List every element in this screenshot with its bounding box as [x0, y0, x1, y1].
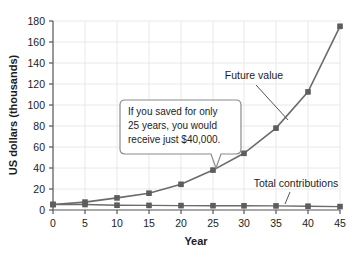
total-contributions-label: Total contributions — [254, 177, 339, 189]
callout-line-1: If you saved for only — [128, 106, 218, 117]
x-tick-40: 40 — [302, 217, 314, 229]
x-tick-10: 10 — [111, 217, 123, 229]
x-tick-5: 5 — [82, 217, 88, 229]
callout-line-3: receive just $40,000. — [128, 134, 220, 145]
x-tick-25: 25 — [207, 217, 219, 229]
x-tick-15: 15 — [143, 217, 155, 229]
y-tick-180: 180 — [27, 15, 45, 27]
y-tick-140: 140 — [27, 57, 45, 69]
x-tick-20: 20 — [175, 217, 187, 229]
y-tick-80: 80 — [33, 120, 45, 132]
y-tick-100: 100 — [27, 99, 45, 111]
y-tick-40: 40 — [33, 162, 45, 174]
y-tick-20: 20 — [33, 183, 45, 195]
future-value-line-chart: 0 20 40 60 80 100 120 140 160 180 0 5 10… — [0, 0, 353, 256]
y-axis-title: US dollars (thousands) — [7, 54, 19, 175]
x-tick-0: 0 — [50, 217, 56, 229]
callout-line-2: 25 years, you would — [128, 120, 217, 131]
y-tick-120: 120 — [27, 78, 45, 90]
future-value-label: Future value — [225, 69, 284, 81]
chart-figure: 0 20 40 60 80 100 120 140 160 180 0 5 10… — [0, 0, 353, 256]
y-tick-0: 0 — [39, 204, 45, 216]
x-axis-title: Year — [184, 235, 208, 247]
y-tick-160: 160 — [27, 36, 45, 48]
x-tick-30: 30 — [238, 217, 250, 229]
x-tick-45: 45 — [334, 217, 346, 229]
x-tick-35: 35 — [270, 217, 282, 229]
y-tick-60: 60 — [33, 141, 45, 153]
